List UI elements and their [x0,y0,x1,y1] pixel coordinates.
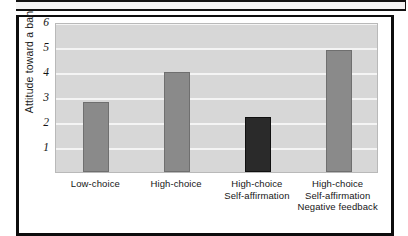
bar-body [164,72,190,172]
y-tick-label: 1 [33,141,49,153]
y-tick-label: 2 [33,116,49,128]
gridline [56,23,377,25]
x-category-label-line: Self-affirmation [286,190,390,202]
y-tick-label: 5 [33,41,49,53]
x-category-label-line: High-choice [286,178,390,190]
bar [326,50,352,173]
x-category-label: High-choiceSelf-affirmationNegative feed… [286,178,390,213]
bar [164,72,190,172]
y-tick-label: 6 [33,16,49,28]
y-tick-label: 4 [33,66,49,78]
bar-body [83,102,109,172]
figure-page: Attitude toward a ban 123456 Low-choiceH… [0,0,408,236]
bar-body [326,50,352,173]
plot-area [55,23,378,173]
bar [245,117,271,172]
x-category-label-line: Negative feedback [286,201,390,213]
y-tick-label: 3 [33,91,49,103]
bar-body [245,117,271,172]
bar [83,102,109,172]
bar-chart: Attitude toward a ban 123456 Low-choiceH… [0,0,408,236]
